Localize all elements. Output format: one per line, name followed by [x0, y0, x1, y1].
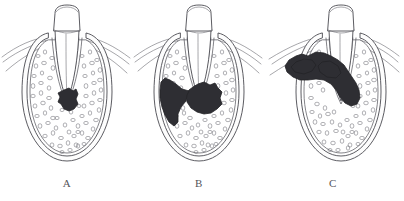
panel-a-label: A	[0, 176, 134, 190]
panel-c-illustration	[266, 0, 400, 178]
panel-a-illustration	[0, 0, 134, 178]
panel-b-label: B	[132, 176, 266, 190]
tooth-crown	[186, 5, 212, 33]
panel-c: C Abscess discharging outside the bone p…	[266, 0, 400, 201]
panel-b: B Enlarged lesion perforating the cortic…	[132, 0, 266, 201]
tooth-crown	[54, 5, 80, 33]
panel-b-illustration	[132, 0, 266, 178]
tooth-crown	[328, 5, 354, 33]
panel-c-label: C	[266, 176, 400, 190]
panel-a: A Small periapical radiolucency confined…	[0, 0, 134, 201]
figure-root: A Small periapical radiolucency confined…	[0, 0, 404, 201]
